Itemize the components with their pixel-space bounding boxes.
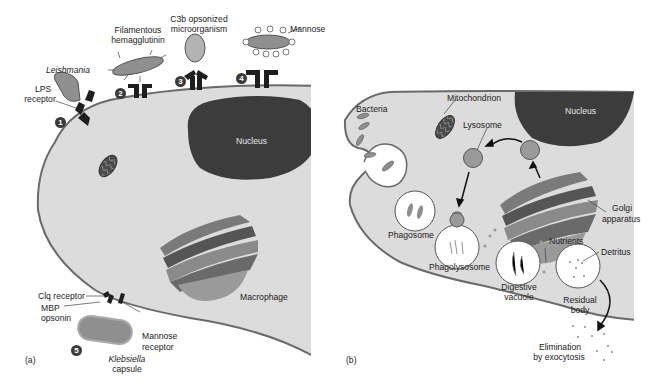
label-c3b-1: C3b opsonized: [168, 14, 230, 24]
label-macrophage: Macrophage: [240, 292, 288, 302]
label-mbp-1: MBP: [41, 303, 60, 313]
label-mannose-receptor-2: receptor: [142, 342, 174, 352]
panel-b-tag: (b): [346, 355, 357, 365]
lysosome-1: [464, 149, 483, 168]
label-leishmania: Leishmania: [46, 65, 90, 75]
label-bacteria: Bacteria: [356, 104, 388, 114]
label-capsule: capsule: [106, 364, 148, 374]
label-mbp-2: opsonin: [41, 313, 71, 323]
label-lps-line2: receptor: [22, 94, 58, 104]
label-nucleus-b: Nucleus: [565, 106, 596, 116]
panel-a-tag: (a): [25, 355, 36, 365]
lysosome-2: [521, 141, 540, 160]
label-phagolysosome: Phagolysosome: [429, 262, 490, 272]
label-clq-receptor: Clq receptor: [38, 291, 85, 301]
label-filamentous-2: hemagglutinin: [106, 35, 170, 45]
label-digestive-2: vacuole: [496, 292, 542, 302]
leishmania: [54, 72, 80, 101]
label-digestive-1: Digestive: [496, 282, 542, 292]
step-3-badge: 3: [175, 76, 186, 87]
label-klebsiella: Klebsiella: [106, 354, 148, 364]
residual-body: [556, 244, 600, 288]
label-elimination-1: Elimination: [528, 342, 592, 352]
label-residual-2: body: [558, 305, 602, 315]
label-golgi-2: apparatus: [602, 214, 640, 224]
c3b-organism: [185, 34, 205, 62]
label-elimination-2: by exocytosis: [524, 352, 594, 362]
label-nucleus-a: Nucleus: [236, 136, 267, 146]
mannose-organism: [243, 26, 295, 57]
label-mannose: Mannose: [290, 24, 325, 34]
label-mitochondrion: Mitochondrion: [447, 93, 501, 103]
macrophage-cell-a: [38, 85, 320, 360]
label-detritus: Detritus: [601, 247, 631, 257]
label-residual-1: Residual: [558, 295, 602, 305]
label-lysosome: Lysosome: [463, 120, 502, 130]
filamentous-bacterium: [108, 50, 166, 82]
label-mannose-receptor-1: Mannose: [142, 331, 177, 341]
klebsiella-bacterium: [77, 314, 134, 345]
phagocytosis-diagram: [0, 0, 654, 387]
label-golgi-1: Golgi: [612, 203, 632, 213]
step-5-badge: 5: [71, 345, 82, 356]
step-4-badge: 4: [236, 73, 247, 84]
step-1-badge: 1: [55, 117, 66, 128]
label-lps-line1: LPS: [28, 84, 58, 94]
phagosome: [395, 191, 435, 231]
label-c3b-2: microorganism: [168, 24, 230, 34]
label-filamentous-1: Filamentous: [108, 25, 168, 35]
label-phagosome: Phagosome: [388, 230, 434, 240]
label-nutrients: Nutrients: [549, 236, 583, 246]
step-2-badge: 2: [115, 88, 126, 99]
digestive-vacuole: [496, 241, 540, 285]
